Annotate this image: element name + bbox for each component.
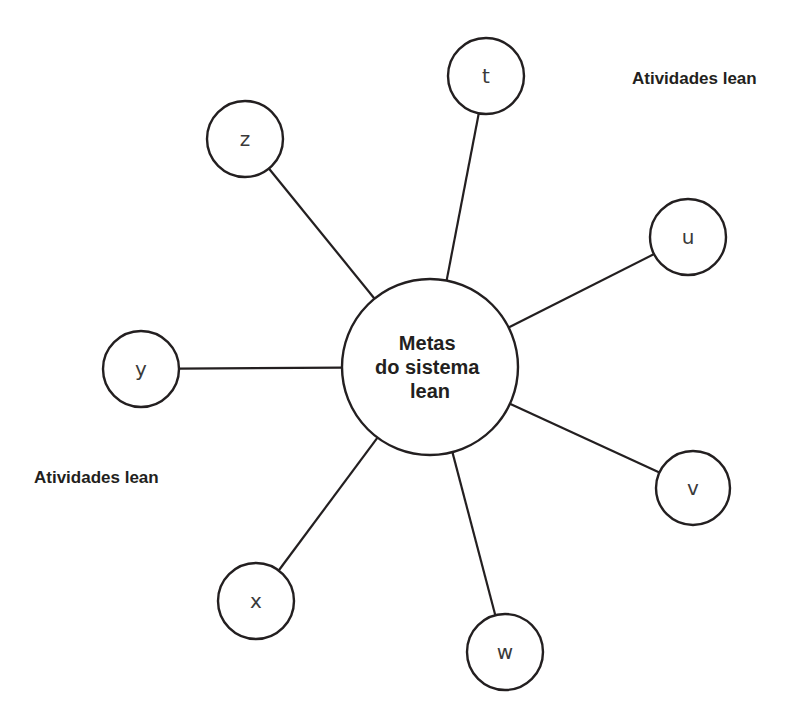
node-label-v: v bbox=[687, 476, 699, 500]
connector-center-to-v bbox=[510, 404, 660, 473]
node-label-x: x bbox=[250, 589, 262, 613]
connector-center-to-y bbox=[179, 368, 342, 369]
node-z: z bbox=[207, 101, 283, 177]
node-u: u bbox=[650, 199, 726, 275]
connector-center-to-x bbox=[279, 438, 378, 571]
center-node-metas-do-sistema-lean: Metas do sistema lean bbox=[342, 279, 518, 455]
node-label-t: t bbox=[482, 64, 490, 88]
connector-center-to-t bbox=[447, 113, 479, 280]
center-label-line-2: do sistema bbox=[375, 356, 480, 378]
center-label-line-3: lean bbox=[410, 380, 450, 402]
node-y: y bbox=[103, 331, 179, 407]
node-label-u: u bbox=[682, 225, 695, 249]
connector-center-to-u bbox=[509, 254, 654, 327]
node-label-w: w bbox=[497, 640, 513, 664]
group-label-atividades-lean-top-right: Atividades lean bbox=[632, 69, 757, 89]
diagram-canvas: Metas do sistema lean tuvwxyz bbox=[0, 0, 800, 708]
node-v: v bbox=[656, 451, 730, 525]
node-label-y: y bbox=[135, 357, 147, 381]
node-label-z: z bbox=[240, 127, 251, 151]
node-x: x bbox=[218, 563, 294, 639]
connector-center-to-z bbox=[269, 169, 375, 299]
node-w: w bbox=[467, 614, 543, 690]
node-t: t bbox=[448, 38, 524, 114]
group-label-atividades-lean-bottom-left: Atividades lean bbox=[34, 468, 159, 488]
center-label-line-1: Metas bbox=[399, 332, 456, 354]
connector-center-to-w bbox=[452, 452, 495, 615]
